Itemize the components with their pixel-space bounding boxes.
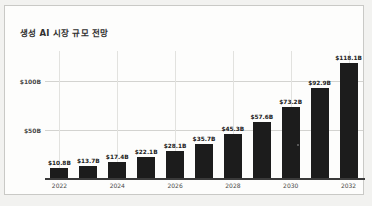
bar: $22.1B bbox=[137, 157, 155, 179]
bar: $118.1B bbox=[340, 63, 358, 179]
bar-value-label: $57.6B bbox=[250, 114, 273, 120]
x-axis-tick-label: 2028 bbox=[225, 182, 240, 189]
x-axis-tick-label: 2032 bbox=[341, 182, 356, 189]
bar-value-label: $73.2B bbox=[279, 99, 302, 105]
bar-value-label: $10.8B bbox=[48, 160, 71, 166]
bar-value-label: $22.1B bbox=[135, 149, 158, 155]
x-axis-tick-label: 2030 bbox=[283, 182, 298, 189]
plot-area: $50B$100B $10.8B$13.7B$17.4B$22.1B$28.1B… bbox=[45, 51, 363, 179]
bar: $73.2B bbox=[282, 107, 300, 179]
bar: $28.1B bbox=[166, 151, 184, 179]
screenshot-root: 생성 AI 시장 규모 전망 $50B$100B $10.8B$13.7B$17… bbox=[0, 0, 372, 206]
x-axis-tick-label: 2024 bbox=[110, 182, 125, 189]
bar-value-label: $28.1B bbox=[164, 143, 187, 149]
x-axis-tick-label: 2026 bbox=[167, 182, 182, 189]
y-axis-tick-label: $50B bbox=[24, 126, 41, 133]
y-axis-tick-label: $100B bbox=[20, 77, 41, 84]
chart-frame: 생성 AI 시장 규모 전망 $50B$100B $10.8B$13.7B$17… bbox=[4, 5, 364, 195]
bar: $17.4B bbox=[108, 162, 126, 179]
bar: $92.9B bbox=[311, 88, 329, 179]
bar-value-label: $92.9B bbox=[308, 80, 331, 86]
x-axis-line bbox=[45, 178, 365, 180]
bar: $35.7B bbox=[195, 144, 213, 179]
scan-artifact-speck bbox=[297, 144, 299, 146]
bar-value-label: $17.4B bbox=[106, 154, 129, 160]
bar: $13.7B bbox=[79, 166, 97, 179]
bar: $45.3B bbox=[224, 134, 242, 179]
x-axis-tick-label: 2022 bbox=[52, 182, 67, 189]
bar-value-label: $118.1B bbox=[335, 55, 362, 61]
bar: $57.6B bbox=[253, 122, 271, 179]
bar-value-label: $45.3B bbox=[222, 126, 245, 132]
chart-title: 생성 AI 시장 규모 전망 bbox=[20, 26, 108, 38]
bar-value-label: $13.7B bbox=[77, 158, 100, 164]
bar-value-label: $35.7B bbox=[193, 136, 216, 142]
